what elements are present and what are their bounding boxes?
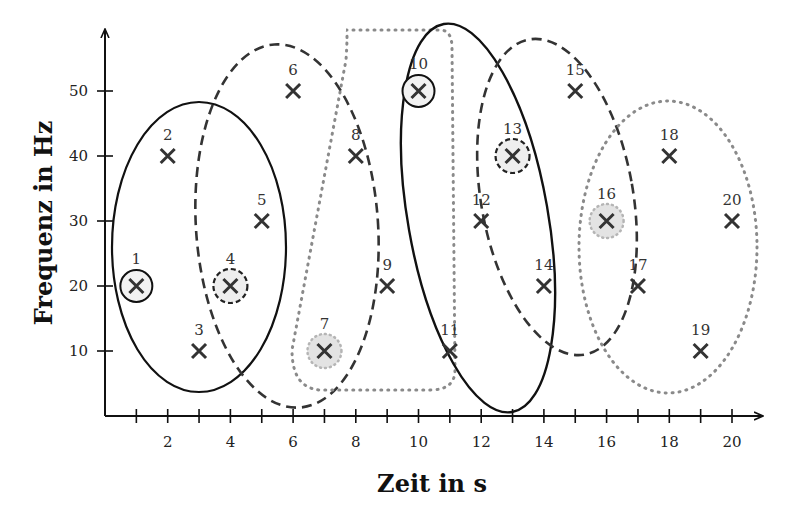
point-label: 7: [320, 315, 330, 333]
cluster-dashed-4: [184, 38, 391, 414]
point-label: 4: [226, 250, 236, 268]
y-axis-title: Frequenz in Hz: [29, 121, 58, 326]
data-point-2: 2: [161, 126, 175, 163]
cluster-dotted-16: [579, 101, 757, 393]
data-point-14: 14: [534, 256, 553, 293]
cross-marker-icon: [286, 84, 300, 98]
point-label: 13: [503, 120, 522, 138]
cross-marker-icon: [662, 149, 676, 163]
x-tick-label: 8: [351, 433, 361, 451]
x-tick-label: 16: [597, 433, 616, 451]
cross-marker-icon: [380, 279, 394, 293]
data-point-9: 9: [380, 256, 394, 293]
x-tick-label: 12: [472, 433, 491, 451]
data-point-20: 20: [722, 191, 741, 228]
cross-marker-icon: [694, 344, 708, 358]
cross-marker-icon: [349, 149, 363, 163]
point-label: 11: [440, 321, 459, 339]
y-ticks: 1020304050: [69, 82, 113, 360]
x-axis-title: Zeit in s: [377, 469, 487, 498]
point-label: 5: [257, 191, 267, 209]
point-label: 3: [194, 321, 204, 339]
cluster-solid-1: [112, 102, 286, 392]
data-point-16: 16: [590, 185, 624, 238]
y-tick-label: 10: [69, 342, 88, 360]
point-label: 8: [351, 126, 361, 144]
point-label: 16: [597, 185, 616, 203]
cross-marker-icon: [537, 279, 551, 293]
data-point-7: 7: [307, 315, 341, 368]
cross-marker-icon: [192, 344, 206, 358]
data-point-5: 5: [255, 191, 269, 228]
point-label: 10: [409, 55, 428, 73]
point-label: 15: [566, 61, 585, 79]
cross-marker-icon: [474, 214, 488, 228]
data-point-1: 1: [120, 250, 152, 302]
x-tick-label: 4: [226, 433, 236, 451]
x-tick-label: 6: [288, 433, 298, 451]
cross-marker-icon: [255, 214, 269, 228]
data-point-19: 19: [691, 321, 710, 358]
point-label: 9: [382, 256, 392, 274]
point-label: 6: [288, 61, 298, 79]
cluster-outlines: [112, 12, 757, 424]
y-tick-label: 20: [69, 277, 88, 295]
data-point-11: 11: [440, 321, 459, 358]
point-label: 17: [628, 256, 647, 274]
data-point-18: 18: [660, 126, 679, 163]
point-label: 18: [660, 126, 679, 144]
x-tick-label: 18: [660, 433, 679, 451]
data-points: 1234567891011121314151617181920: [120, 55, 741, 368]
x-tick-label: 14: [534, 433, 553, 451]
data-point-4: 4: [213, 250, 247, 303]
point-label: 12: [472, 191, 491, 209]
cross-marker-icon: [725, 214, 739, 228]
y-tick-label: 40: [69, 147, 88, 165]
x-tick-label: 10: [409, 433, 428, 451]
data-point-15: 15: [566, 61, 585, 98]
point-label: 2: [163, 126, 173, 144]
data-point-10: 10: [403, 55, 435, 107]
data-point-3: 3: [192, 321, 206, 358]
data-point-12: 12: [472, 191, 491, 228]
point-label: 20: [722, 191, 741, 209]
y-tick-label: 50: [69, 82, 88, 100]
y-tick-label: 30: [69, 212, 88, 230]
point-label: 14: [534, 256, 553, 274]
cross-marker-icon: [161, 149, 175, 163]
data-point-13: 13: [496, 120, 530, 173]
x-tick-label: 20: [722, 433, 741, 451]
x-tick-label: 2: [163, 433, 173, 451]
cross-marker-icon: [568, 84, 582, 98]
point-label: 1: [132, 250, 142, 268]
point-label: 19: [691, 321, 710, 339]
data-point-6: 6: [286, 61, 300, 98]
scatter-chart: 2468101214161820 1020304050 123456789101…: [0, 0, 791, 511]
